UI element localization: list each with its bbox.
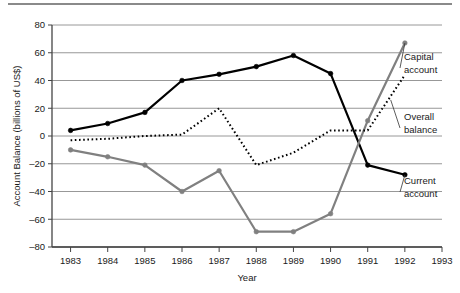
x-tick-label: 1985 <box>134 255 155 266</box>
series-marker <box>68 128 73 133</box>
series-marker <box>291 229 296 234</box>
y-tick-label: 40 <box>34 75 45 86</box>
series-marker <box>217 168 222 173</box>
y-tick-label: –80 <box>29 241 45 252</box>
y-tick-label: –60 <box>29 214 45 225</box>
series-marker <box>328 211 333 216</box>
annotation-label: balance <box>404 124 437 135</box>
annotation-leader-line <box>391 100 400 128</box>
annotation-label: Capital <box>404 51 434 62</box>
x-tick-label: 1991 <box>357 255 378 266</box>
series-line <box>71 56 405 175</box>
series-marker <box>254 64 259 69</box>
x-tick-label: 1992 <box>394 255 415 266</box>
y-tick-label: 80 <box>34 19 45 30</box>
data-series-group <box>68 41 407 234</box>
series-marker <box>68 148 73 153</box>
annotation-labels-group: CapitalaccountOverallbalanceCurrentaccou… <box>404 51 438 199</box>
series-marker <box>291 53 296 58</box>
y-axis-title: Account Balance (billions of US$) <box>11 66 22 207</box>
y-tick-label: –20 <box>29 158 45 169</box>
series-marker <box>105 155 110 160</box>
gridlines-group <box>52 25 442 247</box>
annotation-label: Current <box>404 175 436 186</box>
series-marker <box>180 78 185 83</box>
line-chart-plot: –80–60–40–20020406080 198319841985198619… <box>0 0 460 293</box>
x-tick-label: 1990 <box>320 255 341 266</box>
header-divider-rule <box>8 3 452 5</box>
x-axis-title: Year <box>237 272 256 283</box>
series-marker <box>143 110 148 115</box>
x-tick-label: 1987 <box>209 255 230 266</box>
series-marker <box>365 163 370 168</box>
y-axis-ticks-group: –80–60–40–20020406080 <box>29 19 52 252</box>
x-tick-label: 1993 <box>431 255 452 266</box>
y-tick-label: 20 <box>34 103 45 114</box>
x-tick-label: 1988 <box>246 255 267 266</box>
x-tick-label: 1989 <box>283 255 304 266</box>
annotation-leader-lines-group <box>391 43 405 192</box>
annotation-label: account <box>404 64 438 75</box>
series-marker <box>105 121 110 126</box>
chart-figure: –80–60–40–20020406080 198319841985198619… <box>0 0 460 293</box>
series-marker <box>365 118 370 123</box>
series-marker <box>143 163 148 168</box>
series-marker <box>328 71 333 76</box>
y-tick-label: 60 <box>34 47 45 58</box>
series-marker <box>180 189 185 194</box>
series-marker <box>254 229 259 234</box>
x-axis-ticks-group: 1983198419851986198719881989199019911992… <box>60 247 453 266</box>
y-tick-label: –40 <box>29 186 45 197</box>
annotation-label: account <box>404 188 438 199</box>
x-tick-label: 1984 <box>97 255 118 266</box>
series-marker <box>217 72 222 77</box>
x-tick-label: 1983 <box>60 255 81 266</box>
y-tick-label: 0 <box>40 130 45 141</box>
annotation-label: Overall <box>404 111 434 122</box>
axis-titles-group: YearAccount Balance (billions of US$) <box>11 66 257 284</box>
x-tick-label: 1986 <box>171 255 192 266</box>
